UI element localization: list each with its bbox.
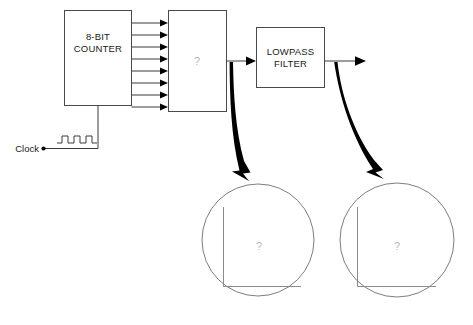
diagram-svg: 8-BIT COUNTER Clock bbox=[0, 0, 473, 325]
lowpass-filter-block[interactable]: LOWPASS FILTER bbox=[257, 28, 325, 88]
bus-arrowhead bbox=[160, 43, 168, 50]
counter-to-dac-bus bbox=[132, 19, 169, 110]
lowpass-filter-label-line2: FILTER bbox=[274, 58, 307, 69]
dac-output-callout-arrow bbox=[230, 62, 251, 181]
filter-output-arrowhead bbox=[355, 56, 366, 66]
block-diagram-canvas: 8-BIT COUNTER Clock bbox=[0, 0, 473, 325]
bus-arrowhead bbox=[160, 31, 168, 38]
bus-arrowhead bbox=[160, 67, 168, 74]
counter-label-line2: COUNTER bbox=[74, 43, 122, 54]
clock-label: Clock bbox=[15, 143, 39, 154]
filter-output-connection bbox=[325, 56, 367, 66]
bus-arrowhead bbox=[160, 91, 168, 98]
bus-arrowhead bbox=[160, 55, 168, 62]
dac-inset-placeholder-label: ? bbox=[256, 240, 262, 252]
filter-output-waveform-inset[interactable]: ? bbox=[340, 183, 454, 297]
dac-output-arrowhead bbox=[246, 57, 256, 66]
bus-arrowhead bbox=[160, 19, 168, 26]
clock-input-group[interactable]: Clock bbox=[15, 106, 98, 154]
counter-block-outline bbox=[65, 11, 132, 106]
dac-block[interactable]: ? bbox=[169, 11, 227, 112]
filter-inset-placeholder-label: ? bbox=[394, 240, 400, 252]
dac-block-placeholder-label: ? bbox=[194, 55, 200, 67]
bus-arrowhead bbox=[160, 103, 168, 110]
square-wave-icon bbox=[57, 136, 97, 143]
filter-output-callout-arrow bbox=[334, 62, 384, 179]
dac-output-waveform-inset[interactable]: ? bbox=[202, 184, 314, 296]
counter-block[interactable]: 8-BIT COUNTER bbox=[65, 11, 132, 106]
lowpass-filter-label-line1: LOWPASS bbox=[267, 46, 315, 57]
bus-arrowhead bbox=[160, 79, 168, 86]
clock-terminal-dot bbox=[41, 146, 45, 150]
counter-label-line1: 8-BIT bbox=[86, 31, 110, 42]
